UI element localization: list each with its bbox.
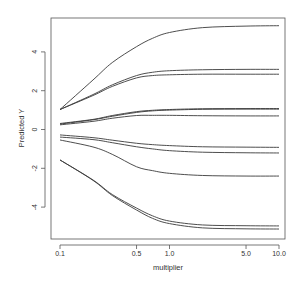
series-lines [60,26,279,229]
y-tick-label: -2 [31,165,38,171]
series-line-11 [60,160,279,229]
x-axis-title: multiplier [153,263,184,272]
y-tick-label: -4 [31,204,38,210]
series-line-5 [60,109,279,124]
x-tick-label: 10.0 [272,250,286,257]
x-tick-label: 1.0 [165,250,175,257]
line-chart: 0.10.51.05.010.0 420-2-4 multiplier Pred… [0,0,304,283]
series-line-7 [60,135,279,147]
series-line-8 [60,137,279,153]
y-axis-title: Predicted Y [17,109,26,148]
series-line-10 [60,160,279,226]
series-line-3 [60,74,279,109]
plot-frame [51,18,285,239]
y-tick-label: 2 [31,89,38,93]
series-line-1 [60,26,279,110]
series-line-2 [60,69,279,109]
x-tick-label: 0.1 [55,250,65,257]
y-tick-label: 4 [31,50,38,54]
x-tick-label: 0.5 [132,250,142,257]
y-axis: 420-2-4 [31,50,45,210]
x-axis: 0.10.51.05.010.0 [55,245,286,257]
x-tick-label: 5.0 [241,250,251,257]
y-tick-label: 0 [31,127,38,131]
